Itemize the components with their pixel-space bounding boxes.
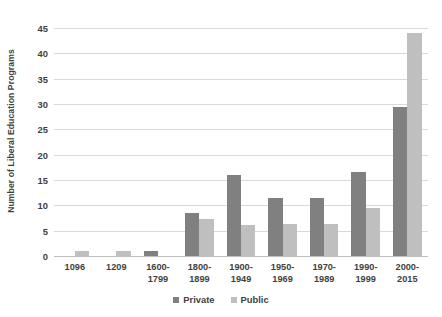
bar-private [268, 198, 282, 256]
bar-group [345, 28, 387, 256]
bar-slot [185, 28, 199, 256]
bar-slot [199, 28, 213, 256]
legend-label: Private [183, 294, 214, 305]
chart-legend: PrivatePublic [0, 294, 442, 305]
bar-private [144, 251, 158, 256]
legend-swatch-icon [173, 297, 179, 303]
legend-swatch-icon [231, 297, 237, 303]
bar-slot [241, 28, 255, 256]
bar-slot [227, 28, 241, 256]
x-axis-tick-label: 1096 [54, 259, 96, 293]
bar-slot [310, 28, 324, 256]
bar-private [310, 198, 324, 256]
y-axis-tick-label: 0 [8, 251, 54, 262]
legend-item[interactable]: Public [231, 294, 269, 305]
x-axis-tick-label: 1900-1949 [220, 259, 262, 293]
x-axis-tick-labels: 109612091600-17991800-18991900-19491950-… [54, 259, 428, 293]
y-axis-tick-label: 25 [8, 124, 54, 135]
bar-private [393, 107, 407, 256]
bar-slot [144, 28, 158, 256]
bar-group [54, 28, 96, 256]
bar-slot [407, 28, 421, 256]
bar-slot [324, 28, 338, 256]
y-axis-tick-label: 15 [8, 175, 54, 186]
bar-slot [366, 28, 380, 256]
bar-slot [283, 28, 297, 256]
y-axis-tick-label: 40 [8, 48, 54, 59]
bar-public [366, 208, 380, 256]
x-axis-tick-label: 1600-1799 [137, 259, 179, 293]
legend-item[interactable]: Private [173, 294, 214, 305]
bar-slot [393, 28, 407, 256]
bar-private [351, 172, 365, 256]
bar-slot [60, 28, 74, 256]
bar-group [220, 28, 262, 256]
bar-group [262, 28, 304, 256]
y-axis-tick-label: 5 [8, 225, 54, 236]
bar-slot [75, 28, 89, 256]
bar-public [75, 251, 89, 256]
bar-chart: Number of Liberal Education Programs 454… [0, 0, 442, 317]
y-axis-tick-labels: 454035302520151050 [0, 28, 54, 256]
bar-public [324, 224, 338, 256]
bar-public [283, 224, 297, 256]
y-axis-tick-label: 35 [8, 73, 54, 84]
bar-public [407, 33, 421, 256]
gridline [54, 256, 428, 257]
bar-slot [158, 28, 172, 256]
bar-group [96, 28, 138, 256]
bar-public [241, 225, 255, 256]
y-axis-tick-label: 20 [8, 149, 54, 160]
bar-slot [268, 28, 282, 256]
legend-label: Public [241, 294, 269, 305]
bar-private [185, 213, 199, 256]
bar-group [387, 28, 429, 256]
bar-slot [102, 28, 116, 256]
x-axis-tick-label: 2000-2015 [387, 259, 429, 293]
y-axis-tick-label: 10 [8, 200, 54, 211]
x-axis-tick-label: 1209 [96, 259, 138, 293]
bar-group [179, 28, 221, 256]
y-axis-tick-label: 30 [8, 99, 54, 110]
x-axis-tick-label: 1990-1999 [345, 259, 387, 293]
bar-private [227, 175, 241, 256]
bar-slot [351, 28, 365, 256]
bar-group [303, 28, 345, 256]
y-axis-tick-label: 45 [8, 23, 54, 34]
bar-public [116, 251, 130, 256]
bar-slot [116, 28, 130, 256]
bar-group [137, 28, 179, 256]
x-axis-tick-label: 1800-1899 [179, 259, 221, 293]
bar-public [199, 219, 213, 256]
x-axis-tick-label: 1970-1989 [303, 259, 345, 293]
bar-groups [54, 28, 428, 256]
x-axis-tick-label: 1950-1969 [262, 259, 304, 293]
